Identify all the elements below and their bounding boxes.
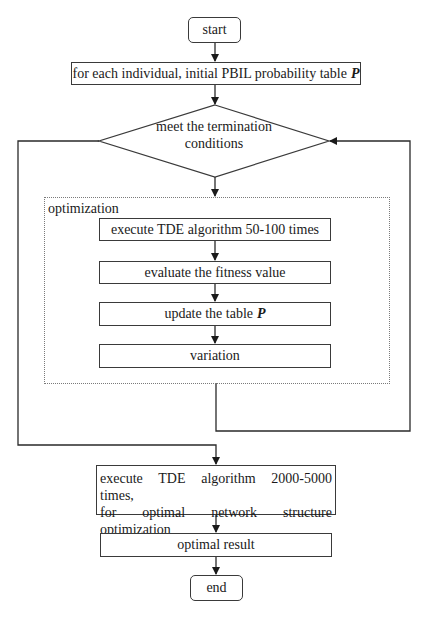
decision-label-line2: conditions [99, 135, 329, 152]
execute-small-node: execute TDE algorithm 50-100 times [99, 218, 331, 241]
result-node: optimal result [100, 533, 332, 557]
execute-large-node: execute TDE algorithm 2000-5000 times, f… [96, 465, 336, 515]
start-node: start [188, 17, 241, 43]
variation-label: variation [190, 348, 240, 364]
init-node: for each individual, initial PBIL probab… [71, 62, 361, 85]
start-label: start [202, 22, 226, 38]
execute-small-label: execute TDE algorithm 50-100 times [111, 222, 319, 238]
end-node: end [190, 575, 243, 601]
decision-label: meet the termination conditions [99, 118, 329, 152]
optimization-label: optimization [48, 201, 119, 217]
update-symbol: P [257, 306, 266, 322]
result-label: optimal result [177, 537, 254, 553]
flowchart: start for each individual, initial PBIL … [0, 0, 426, 618]
variation-node: variation [99, 344, 331, 368]
update-label: update the table [164, 306, 253, 322]
end-label: end [206, 580, 226, 596]
update-node: update the table P [99, 302, 331, 326]
init-label: for each individual, initial PBIL probab… [73, 66, 347, 82]
decision-label-line1: meet the termination [99, 118, 329, 135]
execute-large-label-line1: execute TDE algorithm 2000-5000 times, [100, 470, 332, 504]
evaluate-node: evaluate the fitness value [99, 261, 331, 284]
init-symbol: P [351, 66, 360, 82]
evaluate-label: evaluate the fitness value [144, 265, 285, 281]
